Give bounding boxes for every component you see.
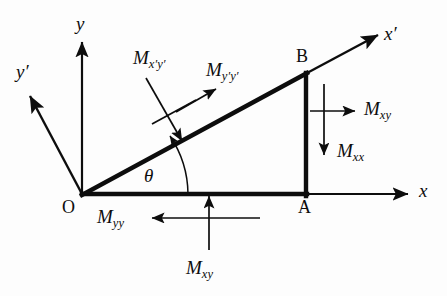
axis-x-prime <box>307 35 378 73</box>
moment-label-xx: Mxx <box>337 141 364 163</box>
axis-label-y-prime: y′ <box>16 62 29 81</box>
moment-arrow-y-prime-y-prime <box>176 89 216 112</box>
moment-arrow-x-prime-y-prime <box>146 78 196 141</box>
moment-label-xy-right: Mxy <box>364 99 391 121</box>
moment-label-x-prime-y-prime: Mx′y′ <box>133 48 165 70</box>
point-label-A: A <box>298 198 311 216</box>
axis-label-y: y <box>76 14 84 33</box>
diagram-canvas <box>0 0 447 296</box>
moment-label-y-prime-y-prime: My′y′ <box>206 60 238 82</box>
axis-y-prime <box>30 96 82 194</box>
axis-label-x: x <box>419 181 427 200</box>
triangle-element <box>82 73 307 196</box>
moment-label-yy: Myy <box>97 207 124 229</box>
moment-label-xy-bottom: Mxy <box>186 258 213 280</box>
point-label-B: B <box>296 47 308 65</box>
axis-label-x-prime: x′ <box>384 24 397 43</box>
moment-resultants-diagram: y x y′ x′ O A B θ Mx′y′ My′y′ Mxy Mxx My… <box>0 0 447 296</box>
point-label-O: O <box>62 198 75 216</box>
angle-label-theta: θ <box>144 166 153 185</box>
